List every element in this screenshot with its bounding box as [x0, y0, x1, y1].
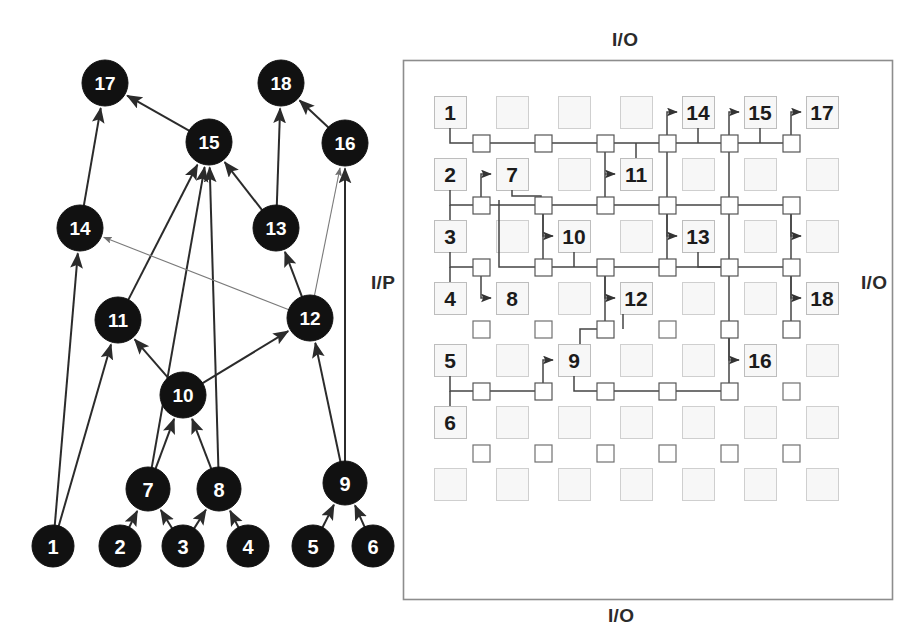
- figure-root: 123456789101112131415161718 I/P 11415172…: [0, 0, 914, 641]
- logic-block-empty[interactable]: [621, 469, 653, 501]
- logic-block-empty[interactable]: [745, 159, 777, 191]
- switch-box[interactable]: [597, 259, 614, 276]
- graph-node[interactable]: 8: [197, 467, 241, 511]
- graph-node[interactable]: 3: [162, 525, 204, 567]
- switch-box[interactable]: [783, 135, 800, 152]
- graph-node[interactable]: 7: [126, 467, 170, 511]
- graph-node[interactable]: 12: [287, 295, 333, 341]
- logic-block-label: 17: [810, 101, 833, 124]
- logic-block-empty[interactable]: [807, 469, 839, 501]
- switch-box[interactable]: [473, 383, 490, 400]
- switch-box[interactable]: [597, 197, 614, 214]
- logic-block-empty[interactable]: [497, 407, 529, 439]
- graph-node[interactable]: 14: [57, 205, 103, 251]
- logic-block-empty[interactable]: [683, 345, 715, 377]
- switch-box[interactable]: [721, 197, 738, 214]
- switch-box[interactable]: [659, 383, 676, 400]
- switch-box[interactable]: [473, 259, 490, 276]
- graph-node[interactable]: 13: [253, 205, 299, 251]
- switch-box[interactable]: [659, 445, 676, 462]
- switch-box[interactable]: [783, 445, 800, 462]
- logic-block-empty[interactable]: [559, 159, 591, 191]
- logic-block-empty[interactable]: [683, 407, 715, 439]
- switch-box[interactable]: [721, 259, 738, 276]
- graph-edge: [277, 109, 280, 207]
- graph-node[interactable]: 16: [322, 120, 368, 166]
- switch-box[interactable]: [535, 321, 552, 338]
- graph-edge: [314, 168, 340, 296]
- switch-box[interactable]: [721, 383, 738, 400]
- logic-block-empty[interactable]: [435, 469, 467, 501]
- logic-block-empty[interactable]: [745, 469, 777, 501]
- logic-block-empty[interactable]: [497, 97, 529, 129]
- logic-block-empty[interactable]: [621, 221, 653, 253]
- switch-box[interactable]: [783, 197, 800, 214]
- switch-box[interactable]: [535, 197, 552, 214]
- graph-node[interactable]: 15: [186, 119, 232, 165]
- logic-block-empty[interactable]: [559, 283, 591, 315]
- switch-box[interactable]: [783, 321, 800, 338]
- logic-block-empty[interactable]: [559, 469, 591, 501]
- graph-edge: [84, 108, 101, 206]
- logic-block-empty[interactable]: [683, 159, 715, 191]
- switch-box[interactable]: [659, 197, 676, 214]
- switch-box[interactable]: [783, 383, 800, 400]
- switch-box[interactable]: [535, 135, 552, 152]
- graph-node[interactable]: 1: [32, 525, 74, 567]
- switch-box[interactable]: [659, 259, 676, 276]
- logic-block-empty[interactable]: [621, 345, 653, 377]
- switch-box[interactable]: [473, 321, 490, 338]
- switch-box[interactable]: [597, 445, 614, 462]
- graph-node[interactable]: 11: [95, 297, 141, 343]
- switch-box[interactable]: [535, 383, 552, 400]
- io-label-right: I/O: [861, 272, 887, 294]
- graph-node-label: 9: [339, 473, 350, 495]
- switch-box[interactable]: [473, 445, 490, 462]
- switch-box[interactable]: [597, 321, 614, 338]
- logic-block-empty[interactable]: [683, 469, 715, 501]
- logic-block-empty[interactable]: [683, 283, 715, 315]
- switch-box[interactable]: [659, 135, 676, 152]
- switch-box[interactable]: [721, 445, 738, 462]
- logic-block-empty[interactable]: [559, 407, 591, 439]
- logic-block-label: 2: [444, 163, 456, 186]
- logic-block-empty[interactable]: [621, 407, 653, 439]
- graph-node[interactable]: 17: [82, 60, 128, 106]
- switch-box[interactable]: [721, 321, 738, 338]
- logic-block-empty[interactable]: [497, 221, 529, 253]
- switch-box[interactable]: [597, 383, 614, 400]
- logic-block-empty[interactable]: [559, 97, 591, 129]
- input-port-label: I/P: [371, 272, 395, 294]
- switch-box[interactable]: [473, 197, 490, 214]
- graph-node[interactable]: 5: [292, 525, 334, 567]
- switch-box[interactable]: [535, 445, 552, 462]
- graph-node[interactable]: 4: [227, 525, 269, 567]
- graph-node[interactable]: 2: [99, 525, 141, 567]
- logic-block-empty[interactable]: [745, 283, 777, 315]
- logic-block-empty[interactable]: [621, 97, 653, 129]
- logic-block-empty[interactable]: [807, 159, 839, 191]
- graph-node-label: 2: [114, 536, 125, 558]
- logic-block-empty[interactable]: [497, 469, 529, 501]
- switch-box[interactable]: [597, 135, 614, 152]
- logic-block-empty[interactable]: [497, 345, 529, 377]
- switch-box[interactable]: [535, 259, 552, 276]
- graph-edge: [128, 165, 197, 301]
- switch-box[interactable]: [783, 259, 800, 276]
- logic-block-empty[interactable]: [807, 221, 839, 253]
- logic-block-label: 1: [444, 101, 456, 124]
- graph-node[interactable]: 6: [352, 525, 394, 567]
- logic-block-empty[interactable]: [745, 407, 777, 439]
- graph-node[interactable]: 18: [258, 60, 304, 106]
- logic-block-empty[interactable]: [807, 345, 839, 377]
- logic-block-empty[interactable]: [807, 407, 839, 439]
- switch-box[interactable]: [659, 321, 676, 338]
- logic-block-empty[interactable]: [745, 221, 777, 253]
- graph-edge: [104, 237, 290, 310]
- switch-box[interactable]: [473, 135, 490, 152]
- graph-node[interactable]: 9: [323, 461, 367, 505]
- switch-box[interactable]: [721, 135, 738, 152]
- logic-block-label: 10: [562, 225, 585, 248]
- graph-node[interactable]: 10: [160, 372, 206, 418]
- graph-edge: [161, 510, 173, 529]
